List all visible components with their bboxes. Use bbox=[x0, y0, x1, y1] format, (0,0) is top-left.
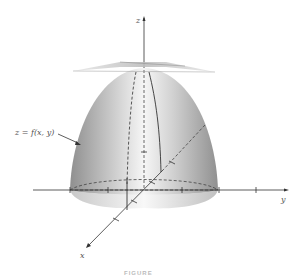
paraboloid-figure: z y x z = f(x, y) FIGURE bbox=[0, 0, 304, 278]
surface-label: z = f(x, y) bbox=[14, 128, 54, 137]
surface-label-arrow bbox=[58, 134, 78, 143]
y-axis-arrow bbox=[284, 189, 289, 192]
z-axis-arrow bbox=[143, 16, 146, 21]
x-axis-label: x bbox=[80, 251, 85, 260]
figure-caption: FIGURE bbox=[124, 270, 153, 276]
y-axis-label: y bbox=[280, 195, 286, 204]
z-axis-label: z bbox=[135, 16, 141, 25]
